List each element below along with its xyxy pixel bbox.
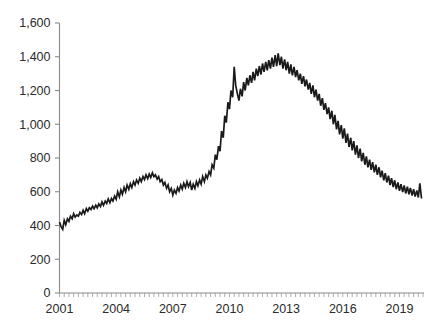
y-tick-label: 600 [30, 185, 51, 199]
y-tick-label: 1,000 [19, 118, 50, 132]
x-tick-label: 2004 [102, 302, 130, 316]
x-tick-label: 2010 [216, 302, 244, 316]
x-tick-label: 2001 [46, 302, 74, 316]
chart-canvas: 02004006008001,0001,2001,4001,6002001200… [0, 0, 436, 332]
x-tick-label: 2013 [272, 302, 300, 316]
line-chart: 02004006008001,0001,2001,4001,6002001200… [0, 0, 436, 332]
data-series-line [60, 53, 422, 229]
y-tick-label: 0 [44, 286, 51, 300]
y-tick-label: 800 [30, 151, 51, 165]
x-tick-label: 2019 [386, 302, 414, 316]
y-tick-label: 1,600 [19, 16, 50, 30]
x-tick-label: 2016 [329, 302, 357, 316]
y-tick-label: 400 [30, 219, 51, 233]
y-tick-label: 200 [30, 253, 51, 267]
y-tick-label: 1,200 [19, 84, 50, 98]
x-tick-label: 2007 [159, 302, 187, 316]
y-tick-label: 1,400 [19, 50, 50, 64]
